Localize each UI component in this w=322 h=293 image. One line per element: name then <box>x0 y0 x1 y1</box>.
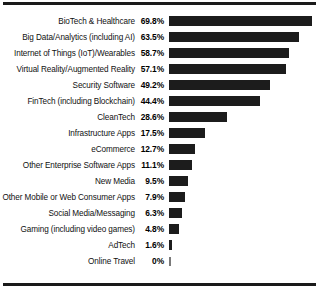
bar <box>169 257 171 266</box>
bar-row: Big Data/Analytics (including AI)63.5% <box>0 29 322 45</box>
bar <box>169 128 205 138</box>
bar-row: Online Travel0% <box>0 253 322 269</box>
value-label: 9.5% <box>135 177 169 186</box>
category-label: Gaming (including video games) <box>0 225 135 234</box>
value-label: 12.7% <box>135 145 169 154</box>
bar-row: New Media9.5% <box>0 173 322 189</box>
bar-track <box>169 125 322 141</box>
category-label: Virtual Reality/Augmented Reality <box>0 65 135 74</box>
value-label: 57.1% <box>135 65 169 74</box>
bar <box>169 96 260 106</box>
bar <box>169 112 227 122</box>
category-label: CleanTech <box>0 113 135 122</box>
bar <box>169 32 299 42</box>
bar-track <box>169 173 322 189</box>
bar <box>169 64 286 74</box>
top-divider-rule <box>3 2 316 5</box>
bar <box>169 176 188 186</box>
category-label: New Media <box>0 177 135 186</box>
value-label: 17.5% <box>135 129 169 138</box>
bar-row: Infrastructure Apps17.5% <box>0 125 322 141</box>
category-label: AdTech <box>0 241 135 250</box>
bar <box>169 240 172 250</box>
bar-row: Social Media/Messaging6.3% <box>0 205 322 221</box>
category-label: FinTech (including Blockchain) <box>0 97 135 106</box>
bar-row: Other Mobile or Web Consumer Apps7.9% <box>0 189 322 205</box>
bar-row: Other Enterprise Software Apps11.1% <box>0 157 322 173</box>
value-label: 44.4% <box>135 97 169 106</box>
value-label: 11.1% <box>135 161 169 170</box>
value-label: 7.9% <box>135 193 169 202</box>
value-label: 58.7% <box>135 49 169 58</box>
value-label: 63.5% <box>135 33 169 42</box>
category-label: Big Data/Analytics (including AI) <box>0 33 135 42</box>
category-label: Social Media/Messaging <box>0 209 135 218</box>
category-label: Online Travel <box>0 257 135 266</box>
value-label: 49.2% <box>135 81 169 90</box>
bar-track <box>169 189 322 205</box>
bar-row: Gaming (including video games)4.8% <box>0 221 322 237</box>
value-label: 4.8% <box>135 225 169 234</box>
bar <box>169 48 289 58</box>
category-label: Internet of Things (IoT)/Wearables <box>0 49 135 58</box>
bar-row: Virtual Reality/Augmented Reality57.1% <box>0 61 322 77</box>
bar-track <box>169 29 322 45</box>
bar-row: eCommerce12.7% <box>0 141 322 157</box>
bar-row: Internet of Things (IoT)/Wearables58.7% <box>0 45 322 61</box>
value-label: 1.6% <box>135 241 169 250</box>
category-label: Other Mobile or Web Consumer Apps <box>0 193 135 202</box>
bar-track <box>169 61 322 77</box>
bar-row: FinTech (including Blockchain)44.4% <box>0 93 322 109</box>
category-label: Infrastructure Apps <box>0 129 135 138</box>
bar-row: Security Software49.2% <box>0 77 322 93</box>
bar <box>169 192 185 202</box>
bar-row: AdTech1.6% <box>0 237 322 253</box>
value-label: 69.8% <box>135 17 169 26</box>
bottom-divider-rule <box>3 283 316 286</box>
bar <box>169 224 179 234</box>
value-label: 0% <box>135 257 169 266</box>
bar-rows-container: BioTech & Healthcare69.8%Big Data/Analyt… <box>0 13 322 269</box>
bar-track <box>169 205 322 221</box>
category-label: BioTech & Healthcare <box>0 17 135 26</box>
category-label: Security Software <box>0 81 135 90</box>
value-label: 6.3% <box>135 209 169 218</box>
bar <box>169 144 195 154</box>
bar <box>169 80 270 90</box>
category-label: Other Enterprise Software Apps <box>0 161 135 170</box>
bar <box>169 16 312 26</box>
horizontal-bar-chart: BioTech & Healthcare69.8%Big Data/Analyt… <box>0 0 322 293</box>
bar-track <box>169 45 322 61</box>
bar-track <box>169 13 322 29</box>
bar-track <box>169 221 322 237</box>
bar-track <box>169 157 322 173</box>
bar-track <box>169 109 322 125</box>
bar <box>169 208 182 218</box>
value-label: 28.6% <box>135 113 169 122</box>
bar-track <box>169 93 322 109</box>
bar-row: BioTech & Healthcare69.8% <box>0 13 322 29</box>
bar-track <box>169 253 322 269</box>
bar-row: CleanTech28.6% <box>0 109 322 125</box>
bar-track <box>169 237 322 253</box>
bar-track <box>169 141 322 157</box>
bar <box>169 160 192 170</box>
category-label: eCommerce <box>0 145 135 154</box>
bar-track <box>169 77 322 93</box>
